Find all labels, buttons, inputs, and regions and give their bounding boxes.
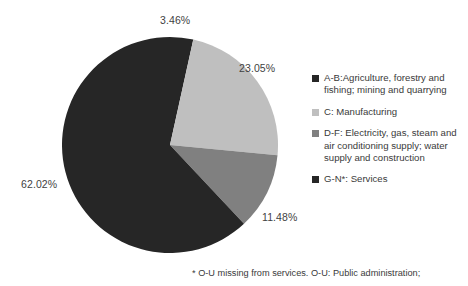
legend-swatch-icon-services [312,176,319,183]
legend-label-agriculture: A-B:Agriculture, forestry and fishing; m… [324,72,462,97]
legend-swatch-icon-agriculture [312,75,319,82]
legend-swatch-icon-manufacturing [312,109,319,116]
pie-chart-figure: 3.46% 23.05% 11.48% 62.02% A-B:Agricultu… [0,0,468,286]
chart-legend: A-B:Agriculture, forestry and fishing; m… [312,72,462,195]
pie-label-electricity-construction: 11.48% [262,211,297,223]
pie-label-agriculture: 3.46% [160,14,190,26]
legend-item-agriculture[interactable]: A-B:Agriculture, forestry and fishing; m… [312,72,462,97]
pie-label-services: 62.02% [21,178,57,190]
chart-footnote: * O-U missing from services. O-U: Public… [192,267,468,279]
legend-label-manufacturing: C: Manufacturing [324,106,397,118]
legend-swatch-icon-electricity-construction [312,130,319,137]
legend-item-services[interactable]: G-N*: Services [312,173,462,185]
legend-item-electricity-construction[interactable]: D-F: Electricity, gas, steam and air con… [312,127,462,164]
legend-item-manufacturing[interactable]: C: Manufacturing [312,106,462,118]
pie-label-manufacturing: 23.05% [239,62,275,74]
legend-label-services: G-N*: Services [324,173,387,185]
legend-label-electricity-construction: D-F: Electricity, gas, steam and air con… [324,127,462,164]
